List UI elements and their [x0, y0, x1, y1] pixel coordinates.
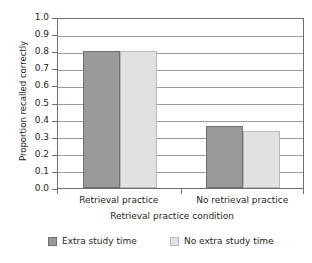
y-axis-tick-label: 0.6: [35, 80, 49, 90]
plot-area: [57, 18, 304, 189]
x-axis-title: Retrieval practice condition: [40, 211, 304, 221]
legend-swatch-icon: [170, 237, 179, 246]
x-axis-tick-mark: [57, 189, 58, 194]
bar: [206, 126, 243, 188]
legend-item: No extra study time: [170, 236, 274, 246]
bar: [243, 131, 280, 188]
y-axis-tick-label: 0.5: [35, 98, 49, 108]
y-axis-tick-label: 0.0: [35, 183, 49, 193]
y-axis-tick-label: 0.1: [35, 166, 49, 176]
bar: [120, 51, 157, 188]
legend-label: No extra study time: [184, 236, 274, 246]
y-axis-tick-label: 0.7: [35, 63, 49, 73]
legend: Extra study timeNo extra study time: [48, 236, 298, 250]
y-axis-tick-label: 0.2: [35, 149, 49, 159]
x-axis-category-label: No retrieval practice: [161, 195, 312, 205]
y-axis-tick-label: 0.4: [35, 115, 49, 125]
x-axis-category-labels: Retrieval practiceNo retrieval practice: [57, 195, 304, 209]
x-axis-tick-mark: [181, 189, 182, 194]
x-axis-tick-mark: [303, 189, 304, 194]
y-axis-tick-label: 1.0: [35, 12, 49, 22]
y-axis-tick-label: 0.9: [35, 29, 49, 39]
y-axis-tick-label: 0.8: [35, 46, 49, 56]
bar: [83, 51, 120, 188]
legend-swatch-icon: [48, 237, 57, 246]
gridline: [58, 36, 303, 37]
y-axis-tick-label: 0.3: [35, 132, 49, 142]
legend-item: Extra study time: [48, 236, 137, 246]
legend-label: Extra study time: [62, 236, 137, 246]
bar-chart-figure: Proportion recalled correctly 1.00.90.80…: [0, 0, 311, 263]
y-axis-ticks: 1.00.90.80.70.60.50.40.30.20.10.0: [0, 18, 57, 189]
